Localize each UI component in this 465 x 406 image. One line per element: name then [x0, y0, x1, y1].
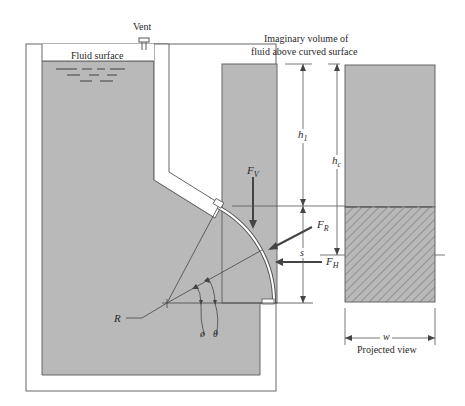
- hc-sub: c: [338, 160, 342, 169]
- fr-main: F: [317, 218, 324, 230]
- fv-main: F: [247, 164, 254, 176]
- hc-symbol: hc: [332, 155, 341, 169]
- theta-symbol: θ: [213, 329, 218, 339]
- fh-main: F: [326, 255, 333, 267]
- force-fh-arrow: [275, 258, 322, 266]
- s-symbol: s: [300, 248, 304, 258]
- r-symbol: R: [114, 313, 121, 324]
- fh-sub: H: [333, 261, 339, 270]
- imaginary-volume-label-line2: fluid above curved surface: [251, 47, 357, 57]
- fv-symbol: FV: [247, 165, 259, 179]
- fr-symbol: FR: [317, 219, 329, 233]
- fh-symbol: FH: [326, 256, 339, 270]
- h1-symbol: h1: [298, 129, 308, 143]
- fr-sub: R: [324, 224, 329, 233]
- projected-view-label: Projected view: [357, 345, 417, 355]
- phi-symbol: ø: [200, 329, 205, 339]
- fluid-surface-label: Fluid surface: [71, 51, 124, 61]
- vent-label: Vent: [133, 22, 151, 32]
- h1-sub: 1: [304, 134, 308, 143]
- fv-sub: V: [254, 170, 259, 179]
- projected-view-hatched-area: [345, 207, 435, 302]
- w-symbol: w: [383, 332, 390, 342]
- imaginary-volume-label-line1: Imaginary volume of: [264, 34, 348, 44]
- projected-view-upper: [345, 65, 435, 207]
